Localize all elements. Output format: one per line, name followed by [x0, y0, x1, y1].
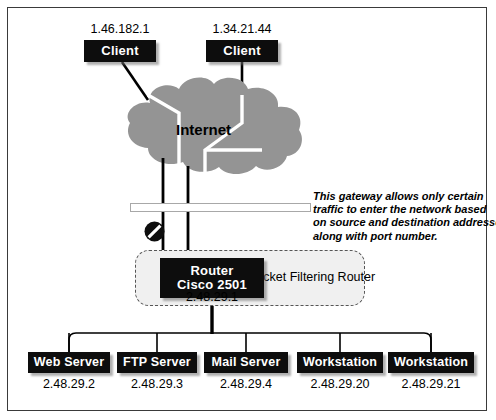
- lan-bus: [69, 333, 431, 352]
- client-2-label: Client: [223, 44, 260, 58]
- annotation-line-3: on source and destination addresses: [313, 216, 489, 229]
- router-label-line1: Router: [190, 264, 233, 278]
- device-web-server[interactable]: Web Server: [28, 352, 110, 373]
- cloud-label: Internet: [176, 121, 231, 138]
- annotation-line-2: traffic to enter the network based: [313, 203, 489, 216]
- device-5-label: Workstation: [394, 356, 468, 369]
- client-2-ip: 1.34.21.44: [196, 22, 288, 36]
- filter-bar: [130, 203, 311, 212]
- device-1-label: Web Server: [34, 356, 105, 369]
- client-1-ip: 1.46.182.1: [74, 22, 166, 36]
- annotation-line-1: This gateway allows only certain: [313, 190, 489, 203]
- device-workstation-1[interactable]: Workstation: [297, 352, 383, 373]
- device-2-label: FTP Server: [123, 356, 191, 369]
- device-ftp-server[interactable]: FTP Server: [117, 352, 197, 373]
- gateway-annotation: This gateway allows only certain traffic…: [313, 190, 489, 243]
- zone-label: Packet Filtering Router: [248, 270, 375, 284]
- device-workstation-2[interactable]: Workstation: [388, 352, 474, 373]
- annotation-line-4: along with port number.: [313, 230, 489, 243]
- device-2-ip: 2.48.29.3: [112, 377, 202, 391]
- client-1-label: Client: [101, 44, 138, 58]
- device-4-label: Workstation: [303, 356, 377, 369]
- link-client1-cloud: [122, 62, 148, 100]
- client-1-node[interactable]: Client: [84, 40, 156, 62]
- device-4-ip: 2.48.29.20: [294, 377, 386, 391]
- router-ip: 2.48.29.1: [152, 290, 272, 304]
- device-3-ip: 2.48.29.4: [201, 377, 291, 391]
- device-3-label: Mail Server: [212, 356, 281, 369]
- device-5-ip: 2.48.29.21: [385, 377, 477, 391]
- device-1-ip: 2.48.29.2: [24, 377, 114, 391]
- device-mail-server[interactable]: Mail Server: [204, 352, 288, 373]
- diagram-canvas: Packet Filtering Router This gateway all…: [0, 0, 496, 420]
- client-2-node[interactable]: Client: [206, 40, 278, 62]
- no-entry-icon: [144, 221, 165, 242]
